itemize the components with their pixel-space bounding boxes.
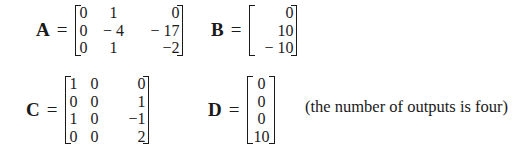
equals-sign: =	[57, 19, 68, 41]
matrix-a: 0 1 0 0 − 4 − 17 0 1 −2	[75, 4, 183, 57]
equation-matrix-c: C = 1 0 0 0 0 1 1 0 −1 0 0 2	[26, 75, 149, 145]
matrix-cell: 0	[133, 4, 179, 22]
matrix-cell: 1	[69, 75, 83, 93]
matrix-b-label: B	[211, 19, 224, 41]
matrix-cell: 1	[69, 110, 83, 128]
matrix-cell: 0	[69, 128, 83, 146]
matrix-c: 1 0 0 0 0 1 1 0 −1 0 0 2	[65, 75, 149, 145]
matrix-cell: 0	[251, 93, 271, 111]
matrix-cell: 0	[105, 75, 145, 93]
matrix-cell: 0	[83, 93, 105, 111]
equals-sign: =	[47, 99, 58, 121]
matrix-d-label: D	[208, 99, 222, 121]
matrix-cell: − 17	[133, 22, 179, 40]
matrix-cell: 0	[79, 39, 93, 57]
matrix-cell: 0	[253, 4, 293, 22]
matrix-cell: 1	[105, 93, 145, 111]
matrix-cell: 0	[251, 75, 271, 93]
equals-sign: =	[229, 99, 240, 121]
outputs-note: (the number of outputs is four)	[305, 97, 508, 117]
matrix-cell: 0	[69, 93, 83, 111]
matrix-cell: 0	[79, 22, 93, 40]
matrix-a-label: A	[36, 19, 50, 41]
equation-matrix-d: D = 0 0 0 10	[208, 75, 275, 145]
matrix-cell: − 10	[253, 39, 293, 57]
matrix-cell: 0	[83, 110, 105, 128]
matrix-cell: 0	[83, 128, 105, 146]
matrix-cell: 1	[93, 39, 133, 57]
matrix-cell: 2	[105, 128, 145, 146]
matrix-cell: −2	[133, 39, 179, 57]
matrix-cell: 10	[253, 22, 293, 40]
equation-matrix-a: A = 0 1 0 0 − 4 − 17 0 1 −2	[36, 4, 183, 57]
equation-matrix-b: B = 0 10 − 10	[211, 4, 297, 57]
matrix-cell: 0	[83, 75, 105, 93]
matrix-c-label: C	[26, 99, 40, 121]
matrix-b: 0 10 − 10	[249, 4, 297, 57]
matrix-cell: 0	[79, 4, 93, 22]
matrix-cell: − 4	[93, 22, 133, 40]
matrix-cell: 1	[93, 4, 133, 22]
matrix-cell: 10	[251, 128, 271, 146]
equals-sign: =	[231, 19, 242, 41]
matrix-cell: −1	[105, 110, 145, 128]
matrix-d: 0 0 0 10	[247, 75, 275, 145]
matrix-cell: 0	[251, 110, 271, 128]
